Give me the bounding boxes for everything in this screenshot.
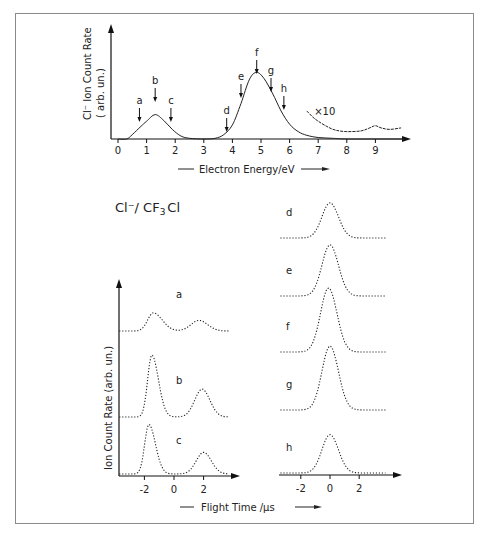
marker-h: h xyxy=(281,83,287,110)
panel-h: h xyxy=(280,435,385,473)
yield-curve xyxy=(118,72,404,139)
flight-time-curve xyxy=(119,313,228,331)
marker-c: c xyxy=(168,95,174,122)
figure: 0123456789 abcdefgh×10 Cl⁻ Ion Count Rat… xyxy=(0,0,490,536)
flight-time-right-panels: -202 defgh xyxy=(279,203,402,494)
flight-time-curve xyxy=(280,288,385,352)
down-arrow-icon xyxy=(269,87,273,92)
x-tick-label: -2 xyxy=(296,483,306,494)
panel-b: b xyxy=(119,355,228,417)
x-tick-label: 6 xyxy=(286,145,292,156)
panel-label: b xyxy=(176,375,182,386)
panel-label: a xyxy=(176,289,182,300)
panel-a: a xyxy=(119,289,228,331)
top-x-label: Electron Energy/eV xyxy=(199,164,295,175)
marker-label: d xyxy=(224,105,230,116)
flight-time-curve xyxy=(280,435,385,473)
down-arrow-icon xyxy=(169,117,173,122)
top-y-label-2: ( arb. un.) xyxy=(95,68,106,118)
down-arrow-icon xyxy=(239,93,243,98)
x10-label: ×10 xyxy=(314,106,335,117)
flight-time-curve xyxy=(280,245,385,296)
top-y-label-1: Cl⁻ Ion Count Rate xyxy=(82,27,93,120)
x-tick-label: 0 xyxy=(171,484,177,495)
x-tick-label: 8 xyxy=(344,145,350,156)
panel-c: c xyxy=(119,425,228,475)
x-tick-label: 4 xyxy=(229,145,235,156)
marker-label: f xyxy=(255,47,259,58)
panel-g: g xyxy=(280,346,385,410)
marker-label: e xyxy=(238,71,244,82)
panel-label: e xyxy=(286,265,292,276)
bottom-x-label: Flight Time /µs xyxy=(201,502,275,513)
panel-label: h xyxy=(286,442,292,453)
x-tick-label: 7 xyxy=(315,145,321,156)
panel-label: c xyxy=(176,435,182,446)
marker-label: h xyxy=(281,83,287,94)
x-tick-label: 2 xyxy=(200,484,206,495)
marker-e: e xyxy=(238,71,244,98)
panel-label: f xyxy=(286,321,290,332)
flight-time-left-panels: -202 abc Ion Count Rate (arb. un.) xyxy=(103,279,240,495)
panel-f: f xyxy=(280,288,385,352)
panel-label: g xyxy=(286,379,292,390)
energy-spectrum-chart: 0123456789 abcdefgh×10 Cl⁻ Ion Count Rat… xyxy=(82,24,411,175)
left-x-axis-arrow-icon xyxy=(231,473,240,479)
panel-e: e xyxy=(280,245,385,296)
marker-a: a xyxy=(136,95,142,122)
flight-time-curve xyxy=(119,355,228,417)
x-tick-label: 1 xyxy=(143,145,149,156)
x-tick-label: 2 xyxy=(356,483,362,494)
x-tick-label: 5 xyxy=(258,145,264,156)
flight-time-curve xyxy=(280,346,385,410)
right-x-axis-arrow-icon xyxy=(393,472,402,478)
panel-d: d xyxy=(280,203,385,238)
x-tick-label: 2 xyxy=(172,145,178,156)
flight-time-curve xyxy=(119,425,228,475)
bottom-xlabel-arrow-icon xyxy=(314,505,322,509)
bottom-y-label: Ion Count Rate (arb. un.) xyxy=(103,346,114,470)
x-tick-label: 0 xyxy=(327,483,333,494)
marker-label: c xyxy=(168,95,174,106)
bottom-title: Cl⁻/ CF3Cl xyxy=(115,200,180,217)
x-tick-label: 9 xyxy=(372,145,378,156)
y-axis-arrow-icon xyxy=(108,24,114,33)
panel-label: d xyxy=(286,207,292,218)
marker-d: d xyxy=(224,105,230,132)
marker-label: g xyxy=(268,65,274,76)
down-arrow-icon xyxy=(153,97,157,102)
marker-g: g xyxy=(268,65,274,92)
marker-label: b xyxy=(152,75,158,86)
left-y-axis-arrow-icon xyxy=(116,279,122,288)
x-tick-label: -2 xyxy=(139,484,149,495)
xlabel-arrow-icon xyxy=(322,167,330,171)
down-arrow-icon xyxy=(137,117,141,122)
marker-label: a xyxy=(136,95,142,106)
x-tick-label: 3 xyxy=(201,145,207,156)
marker-b: b xyxy=(152,75,158,102)
marker-f: f xyxy=(255,47,259,74)
flight-time-curve xyxy=(280,203,385,238)
down-arrow-icon xyxy=(282,105,286,110)
x-tick-label: 0 xyxy=(115,145,121,156)
